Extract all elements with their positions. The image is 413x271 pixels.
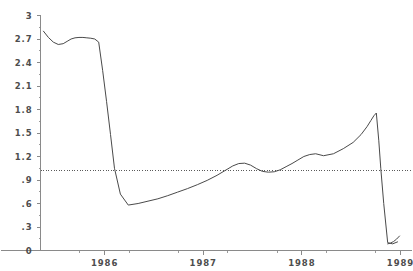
series-group [43, 31, 399, 244]
x-tick-label: 1986 [91, 258, 118, 268]
y-tick-label: 1.5 [15, 128, 33, 138]
y-tick-label: 1.8 [15, 105, 33, 115]
y-tick-label: 3 [26, 11, 33, 21]
y-tick-label: .3 [22, 222, 33, 232]
y-tick-label: 2.1 [15, 81, 33, 91]
y-tick-label: .6 [22, 199, 33, 209]
line-chart: 0.3.6.91.21.51.82.12.42.73 1986198719881… [0, 0, 413, 271]
chart-container: 0.3.6.91.21.51.82.12.42.73 1986198719881… [0, 0, 413, 271]
y-axis-labels: 0.3.6.91.21.51.82.12.42.73 [15, 11, 33, 256]
y-tick-label: 0 [26, 246, 33, 256]
x-axis-ticks [80, 251, 401, 255]
series-line [43, 31, 397, 244]
y-tick-label: .9 [22, 175, 33, 185]
y-axis-ticks [37, 16, 41, 251]
x-tick-label: 1989 [387, 258, 413, 268]
y-tick-label: 2.7 [15, 34, 33, 44]
x-axis-labels: 1986198719881989 [91, 258, 413, 268]
x-tick-label: 1988 [288, 258, 315, 268]
x-tick-label: 1987 [190, 258, 217, 268]
y-tick-label: 2.4 [15, 58, 33, 68]
y-tick-label: 1.2 [15, 152, 33, 162]
